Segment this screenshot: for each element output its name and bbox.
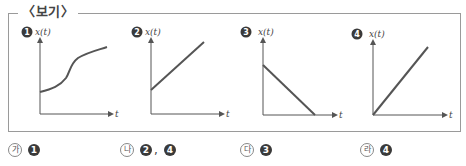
graph-3-ylabel: x(t) [258, 27, 274, 37]
graph-2: 2 x(t) t [132, 27, 231, 120]
graph-3-number: 3 [243, 28, 249, 37]
answer-marker-ra: 라 [360, 143, 374, 157]
answer-marker-da: 다 [240, 143, 254, 157]
graph-1-ylabel: x(t) [35, 27, 51, 37]
graph-3: 3 x(t) t [241, 27, 344, 121]
answer-option-da[interactable]: 다 3 [240, 143, 272, 157]
answer-choice-1: 1 [28, 144, 40, 156]
graph-2-ylabel: x(t) [145, 27, 161, 37]
answer-marker-ga: 가 [8, 143, 22, 157]
answer-separator: , [154, 143, 158, 157]
graph-2-line [151, 42, 204, 90]
graphs-panel: 1 x(t) t 2 x(t) t 3 x(t) t 4 x(t) t [0, 0, 466, 166]
graph-4-xlabel: t [449, 110, 453, 120]
answer-option-ra[interactable]: 라 4 [360, 143, 392, 157]
graph-4-line [373, 47, 428, 115]
answer-choice-2: 2 [140, 144, 152, 156]
graph-2-xlabel: t [226, 109, 230, 119]
graph-2-number: 2 [134, 28, 140, 37]
answer-options: 가 1 나 2 , 4 다 3 라 4 [0, 143, 466, 163]
graph-3-xlabel: t [339, 110, 343, 120]
answer-choice-3: 3 [260, 144, 272, 156]
answer-marker-na: 나 [120, 143, 134, 157]
graph-1-xlabel: t [115, 109, 119, 119]
graph-3-line [263, 65, 315, 115]
graph-4: 4 x(t) t [352, 29, 454, 121]
answer-option-ga[interactable]: 가 1 [8, 143, 40, 157]
graph-1-number: 1 [24, 28, 30, 37]
answer-option-na[interactable]: 나 2 , 4 [120, 143, 176, 157]
graph-1: 1 x(t) t [22, 27, 120, 120]
answer-choice-4: 4 [164, 144, 176, 156]
graph-1-curve [40, 47, 107, 92]
graph-4-ylabel: x(t) [369, 29, 385, 39]
answer-choice-4b: 4 [380, 144, 392, 156]
graph-4-number: 4 [354, 30, 360, 39]
